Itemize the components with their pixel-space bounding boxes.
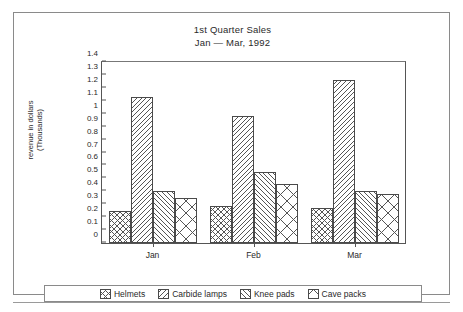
page-bottom-rule bbox=[13, 302, 450, 303]
y-axis-tick-label: 0.4 bbox=[87, 178, 102, 187]
bar-helmets-mar[interactable] bbox=[311, 208, 333, 243]
y-axis-label-line1: revenue in dollars bbox=[26, 100, 35, 159]
bar-cave-packs-feb[interactable] bbox=[276, 184, 298, 243]
bar-group: Jan bbox=[102, 62, 203, 243]
chart-page: 1st Quarter Sales Jan — Mar, 1992 revenu… bbox=[0, 0, 463, 312]
chart-legend: HelmetsCarbide lampsKnee padsCave packs bbox=[44, 285, 422, 302]
y-axis-tick-label: 1.3 bbox=[87, 61, 102, 70]
chart-title: 1st Quarter Sales bbox=[14, 23, 451, 36]
y-axis-tick-label: 0.8 bbox=[87, 126, 102, 135]
y-axis-tick-label: 0.2 bbox=[87, 204, 102, 213]
legend-swatch bbox=[240, 289, 251, 299]
bar-group: Feb bbox=[203, 62, 304, 243]
legend-swatch bbox=[100, 289, 111, 299]
legend-item-carbide-lamps[interactable]: Carbide lamps bbox=[158, 289, 227, 299]
bar-knee-pads-jan[interactable] bbox=[153, 191, 175, 243]
y-axis-label: revenue in dollars (Thousands) bbox=[26, 65, 44, 195]
legend-label: Knee pads bbox=[254, 289, 295, 299]
bar-carbide-lamps-feb[interactable] bbox=[232, 116, 254, 243]
x-axis-tick-label: Jan bbox=[102, 243, 203, 260]
plot-area: 00.10.20.30.40.50.60.70.80.911.11.21.31.… bbox=[101, 61, 406, 244]
x-axis-tick-label: Feb bbox=[203, 243, 304, 260]
y-axis-tick-label: 1.1 bbox=[87, 87, 102, 96]
y-axis-tick-label: 0.9 bbox=[87, 113, 102, 122]
y-axis-tick-label: 0.7 bbox=[87, 139, 102, 148]
bar-groups: JanFebMar bbox=[102, 62, 405, 243]
legend-swatch bbox=[158, 289, 169, 299]
bar-cave-packs-mar[interactable] bbox=[377, 194, 399, 243]
bar-carbide-lamps-jan[interactable] bbox=[131, 97, 153, 243]
legend-item-cave-packs[interactable]: Cave packs bbox=[308, 289, 366, 299]
y-axis-tick-label: 0.5 bbox=[87, 165, 102, 174]
legend-label: Helmets bbox=[114, 289, 145, 299]
bar-carbide-lamps-mar[interactable] bbox=[333, 80, 355, 243]
chart-frame: 1st Quarter Sales Jan — Mar, 1992 revenu… bbox=[13, 12, 450, 295]
bar-knee-pads-feb[interactable] bbox=[254, 172, 276, 243]
y-axis-tick-label: 1.4 bbox=[87, 49, 102, 58]
y-axis-tick-label: 1.2 bbox=[87, 74, 102, 83]
legend-swatch bbox=[308, 289, 319, 299]
chart-title-block: 1st Quarter Sales Jan — Mar, 1992 bbox=[14, 23, 451, 49]
bar-helmets-jan[interactable] bbox=[109, 211, 131, 243]
legend-label: Cave packs bbox=[322, 289, 366, 299]
chart-subtitle: Jan — Mar, 1992 bbox=[14, 36, 451, 49]
y-axis-label-line2: (Thousands) bbox=[35, 109, 44, 151]
bar-group: Mar bbox=[304, 62, 405, 243]
bar-helmets-feb[interactable] bbox=[210, 206, 232, 243]
legend-item-helmets[interactable]: Helmets bbox=[100, 289, 145, 299]
y-axis-tick-label: 0.1 bbox=[87, 217, 102, 226]
y-axis-tick-label: 0 bbox=[94, 230, 102, 239]
y-axis-tick-label: 0.6 bbox=[87, 152, 102, 161]
x-axis-tick-label: Mar bbox=[304, 243, 405, 260]
bar-knee-pads-mar[interactable] bbox=[355, 191, 377, 243]
y-axis-tick-label: 0.3 bbox=[87, 191, 102, 200]
bar-cave-packs-jan[interactable] bbox=[175, 198, 197, 243]
legend-item-knee-pads[interactable]: Knee pads bbox=[240, 289, 295, 299]
legend-label: Carbide lamps bbox=[172, 289, 227, 299]
y-axis-tick-label: 1 bbox=[94, 100, 102, 109]
